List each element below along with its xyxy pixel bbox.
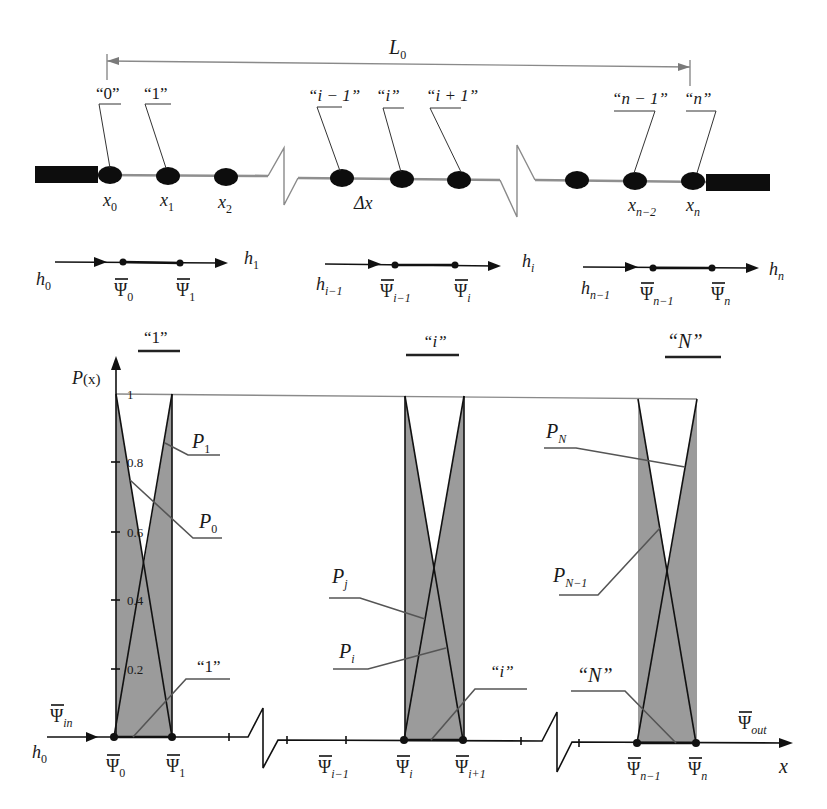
right-boundary-block bbox=[706, 174, 770, 191]
node-tag-i-plus-1-leader bbox=[430, 108, 461, 172]
arrow-left-icon bbox=[107, 57, 119, 65]
psi-b-label: Ψn bbox=[711, 284, 730, 308]
arrow-right-icon bbox=[625, 262, 638, 272]
basis-function-plot: P(x) 1 0.8 0.6 0.4 0.2 bbox=[32, 356, 793, 783]
node-tag-i-leader bbox=[383, 108, 404, 172]
node-tag-i: “i” bbox=[376, 86, 400, 105]
node-i-minus-1 bbox=[330, 169, 354, 187]
arrow-right-icon bbox=[368, 259, 381, 269]
node-2 bbox=[214, 168, 238, 186]
node-dot bbox=[709, 265, 716, 272]
break-symbol-left bbox=[268, 148, 298, 205]
arrow-right-icon bbox=[779, 738, 793, 748]
coord-x-n: xn bbox=[685, 195, 700, 219]
node-tag-0-leader bbox=[99, 104, 121, 168]
head-out-label: h1 bbox=[244, 248, 259, 272]
node-tags: “0” “1” “i − 1” “i” “i + 1” “n − 1” “n” bbox=[96, 84, 716, 173]
rod bbox=[35, 145, 770, 217]
psi-node-label: Ψ1 bbox=[166, 756, 185, 780]
node-dot bbox=[120, 259, 127, 266]
psi-node-label: Ψn bbox=[688, 759, 707, 783]
element-tag-1: “1” bbox=[144, 328, 168, 347]
node-tag-0: “0” bbox=[96, 84, 120, 103]
psi-b-label: Ψi bbox=[454, 281, 471, 305]
node-dot bbox=[459, 736, 467, 744]
inlet-arrow-icon bbox=[86, 732, 98, 742]
coord-x1: x1 bbox=[159, 190, 174, 214]
curve-label-PN-leader bbox=[544, 448, 685, 467]
curve-label-Pj: Pj bbox=[331, 565, 348, 591]
psi-a-label: Ψn−1 bbox=[640, 284, 673, 308]
arrow-up-icon bbox=[111, 356, 121, 370]
arrow-right-icon bbox=[94, 257, 107, 267]
head-out-label: hn bbox=[769, 259, 784, 283]
node-i bbox=[390, 170, 414, 188]
node-dot bbox=[452, 262, 459, 269]
curve-label-Pi: Pi bbox=[338, 640, 355, 666]
node-dot bbox=[392, 262, 399, 269]
coord-x-n-minus-2: xn−2 bbox=[627, 195, 656, 219]
y-tick-label: 1 bbox=[127, 387, 134, 402]
baseline-node-labels: Ψ0 Ψ1 Ψi−1 Ψi Ψi+1 Ψn−1 Ψn bbox=[106, 755, 707, 783]
head-in-label: hn−1 bbox=[581, 278, 610, 302]
left-boundary-block bbox=[35, 166, 98, 183]
node-tag-n-minus-1: “n − 1” bbox=[612, 89, 668, 108]
plot-element-tag-1: “1” bbox=[197, 657, 221, 676]
psi-node-label: Ψn−1 bbox=[627, 759, 660, 783]
curve-label-PN-minus-1: PN−1 bbox=[552, 564, 587, 590]
node-tag-1-leader bbox=[145, 104, 171, 168]
node-tag-n-leader bbox=[686, 111, 716, 173]
node-n bbox=[681, 172, 705, 190]
node-dot bbox=[110, 733, 118, 741]
flow-segment-i: hi−1 hi Ψi−1 Ψi bbox=[316, 251, 534, 305]
head-in-label: hi−1 bbox=[316, 274, 342, 298]
node-dot bbox=[650, 265, 657, 272]
y-tick-label: 0.2 bbox=[127, 662, 143, 677]
x-axis-label: x bbox=[778, 755, 788, 777]
rod-segment-left bbox=[98, 175, 268, 176]
nodes bbox=[98, 166, 705, 190]
curve-label-P0: P0 bbox=[198, 510, 217, 536]
y-tick-label: 0.4 bbox=[127, 593, 144, 608]
finite-element-diagram: L0 “0” “1” “i − 1” “i” “i + 1” bbox=[0, 0, 827, 809]
flow-element bbox=[123, 262, 180, 263]
psi-b-label: Ψ1 bbox=[176, 280, 195, 304]
break-symbol-right bbox=[500, 145, 535, 217]
node-1 bbox=[156, 167, 180, 185]
node-n-minus-1 bbox=[623, 172, 647, 190]
length-label: L0 bbox=[388, 36, 406, 62]
curve-label-P1: P1 bbox=[191, 430, 210, 456]
plot-element-tag-i: “i” bbox=[490, 662, 514, 681]
node-tag-i-minus-1: “i − 1” bbox=[308, 86, 360, 105]
element-tag-i: “i” bbox=[423, 332, 447, 351]
psi-node-label: Ψi+1 bbox=[455, 757, 486, 781]
plot-element-tag-N: “N” bbox=[577, 664, 613, 686]
node-dot bbox=[400, 736, 408, 744]
y-axis-label: P(x) bbox=[71, 368, 101, 388]
node-tag-n-minus-1-leader bbox=[614, 111, 655, 173]
flow-segment-1: h0 h1 Ψ0 Ψ1 bbox=[36, 248, 259, 304]
element-tags: “1” “i” “N” bbox=[138, 328, 721, 357]
node-tag-i-minus-1-leader bbox=[317, 107, 342, 171]
node-tag-i-plus-1: “i + 1” bbox=[426, 86, 478, 105]
node-dot bbox=[692, 739, 700, 747]
y-tick-label: 0.6 bbox=[127, 525, 144, 540]
coord-x2: x2 bbox=[217, 192, 232, 216]
coordinate-labels: x0 x1 x2 Δx xn−2 xn bbox=[102, 190, 700, 219]
length-arrow-line bbox=[107, 61, 690, 67]
curve-label-PN: PN bbox=[545, 420, 567, 446]
node-dot bbox=[633, 739, 641, 747]
unit-level-line bbox=[116, 394, 697, 399]
node-tag-n: “n” bbox=[684, 89, 711, 108]
psi-node-label: Ψi−1 bbox=[318, 757, 349, 781]
arrow-right-icon bbox=[678, 63, 690, 71]
psi-a-label: Ψ0 bbox=[114, 280, 133, 304]
node-n-minus-2 bbox=[565, 171, 589, 189]
psi-node-label: Ψi bbox=[396, 757, 413, 781]
arrow-right-icon bbox=[488, 261, 501, 271]
psi-a-label: Ψi−1 bbox=[380, 281, 411, 305]
coord-x0: x0 bbox=[102, 190, 117, 214]
node-dot bbox=[168, 733, 176, 741]
length-dimension: L0 bbox=[107, 36, 690, 86]
rod-segment-right bbox=[535, 180, 706, 182]
